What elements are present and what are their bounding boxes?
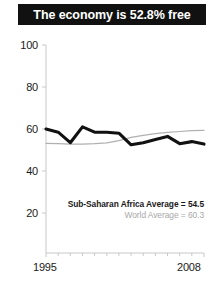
x-axis-ticks xyxy=(46,253,204,257)
chart-legend: Sub-Saharan Africa Average = 54.5 World … xyxy=(46,199,204,221)
x-tick-label-end: 2008 xyxy=(177,261,201,273)
sub-saharan-africa-average-line xyxy=(46,127,204,145)
y-tick-label-100: 100 xyxy=(12,39,38,51)
economic-freedom-chart-card: The economy is 52.8% free xyxy=(0,0,215,288)
chart-axes xyxy=(46,45,204,253)
legend-item-world-average: World Average = 60.3 xyxy=(46,210,204,221)
y-tick-label-80: 80 xyxy=(12,81,38,93)
y-tick-label-60: 60 xyxy=(12,123,38,135)
legend-item-sub-saharan-africa-average: Sub-Saharan Africa Average = 54.5 xyxy=(46,199,204,210)
y-tick-label-40: 40 xyxy=(12,165,38,177)
y-tick-label-20: 20 xyxy=(12,207,38,219)
x-tick-label-start: 1995 xyxy=(33,261,57,273)
